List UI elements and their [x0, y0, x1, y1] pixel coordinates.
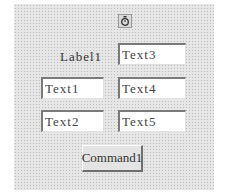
command1-button[interactable]: Command1	[82, 145, 143, 172]
text4-textbox[interactable]	[118, 77, 186, 99]
text5-textbox[interactable]	[118, 110, 186, 132]
form-designer-canvas: Label1 Command1	[14, 4, 214, 190]
label1: Label1	[60, 47, 122, 67]
text2-textbox[interactable]	[41, 110, 104, 132]
timer-control[interactable]	[118, 14, 132, 28]
stopwatch-icon	[120, 16, 130, 26]
text3-textbox[interactable]	[118, 43, 186, 65]
text1-textbox[interactable]	[41, 77, 104, 99]
